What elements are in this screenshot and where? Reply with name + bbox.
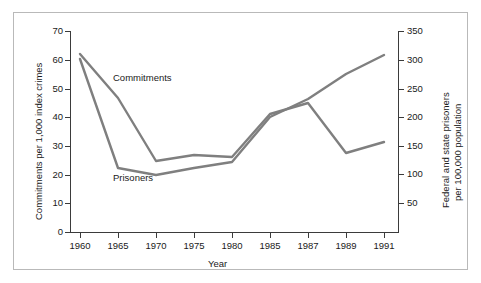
chart-figure: 0 10 20 30 40 50 60 70 50 100 150 200 25… <box>0 0 481 283</box>
commitments-line <box>80 54 384 161</box>
series-plot-area <box>0 0 481 283</box>
